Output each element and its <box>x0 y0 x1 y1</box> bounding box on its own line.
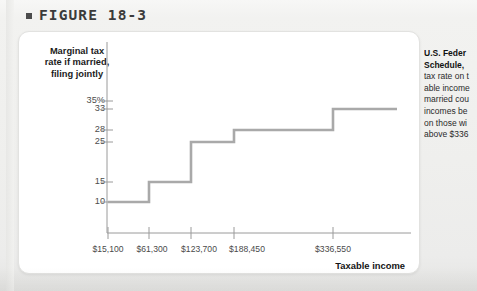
caption-line-7: on those wi <box>424 118 477 130</box>
figure-caption: U.S. Feder Schedule, tax rate on t able … <box>424 48 477 141</box>
x-tick-label: $15,100 <box>92 244 123 254</box>
x-tick-label: $336,550 <box>315 244 351 254</box>
caption-line-3: tax rate on t <box>424 71 477 83</box>
x-tick-label: $188,450 <box>229 244 265 254</box>
caption-line-6: incomes be <box>424 106 477 118</box>
page-background: FIGURE 18-3 Marginal tax rate if married… <box>0 0 477 291</box>
caption-line-5: married cou <box>424 94 477 106</box>
figure-card: Marginal tax rate if married, filing joi… <box>18 31 420 274</box>
figure-header: FIGURE 18-3 <box>26 7 147 23</box>
page-gutter <box>6 0 14 291</box>
caption-line-1: U.S. Feder <box>424 48 477 60</box>
caption-line-4: able income <box>424 83 477 95</box>
square-bullet-icon <box>26 13 32 19</box>
x-axis-tick-labels: $15,100 $61,300 $123,700 $188,450 $336,5… <box>19 244 419 260</box>
step-function-line <box>108 109 397 202</box>
caption-line-2: Schedule, <box>424 60 477 72</box>
x-axis-title: Taxable income <box>335 260 405 271</box>
caption-line-8: above $336 <box>424 129 477 141</box>
figure-label: FIGURE 18-3 <box>39 7 147 23</box>
chart-plot-area: Marginal tax rate if married, filing joi… <box>19 32 419 273</box>
x-tick-label: $61,300 <box>136 244 167 254</box>
x-tick-label: $123,700 <box>181 244 217 254</box>
chart-svg <box>19 32 419 273</box>
